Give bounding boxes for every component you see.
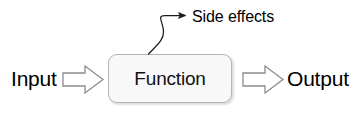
side-effects-curve-path — [149, 16, 182, 55]
side-effects-curved-arrow — [0, 0, 358, 115]
diagram-canvas: Input Function Output Side effects — [0, 0, 358, 115]
side-effects-label: Side effects — [192, 9, 274, 25]
